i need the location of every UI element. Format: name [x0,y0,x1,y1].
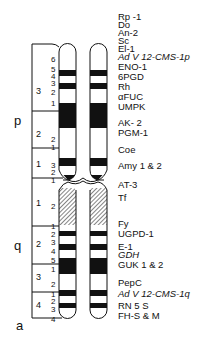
gene-label: PepC [118,278,142,288]
arm-label-q: q [14,238,21,253]
gene-label: Amy 1 & 2 [118,161,162,171]
gene-label: FH-S & M [118,311,160,321]
region-number: 3 [36,86,41,96]
region-number: 3 [36,272,41,282]
gene-label: PGM-1 [118,128,148,138]
region-number: 4 [36,300,41,310]
region-number: 2 [36,129,41,139]
arm-label-a: a [16,318,23,333]
gene-label: GUK 1 & 2 [118,260,163,270]
band-number: 5 [51,256,55,265]
region-number: 1 [36,198,41,208]
arm-label-p: p [14,113,21,128]
band-number: 1 [51,143,55,152]
band-number: 3 [51,79,55,88]
band-number: 4 [51,315,55,324]
gene-label: UGPD-1 [118,229,154,239]
gene-label: AT-3 [118,180,137,190]
region-number: 2 [36,239,41,249]
band-number: 3 [51,238,55,247]
gene-label: Tf [118,193,126,203]
gene-label: UMPK [118,102,145,112]
band-number: 1 [51,176,55,185]
gene-label: Coe [118,145,135,155]
band-number: 1 [51,99,55,108]
gene-label: Ad V 12-CMS-1q [118,289,190,299]
region-number: 1 [36,159,41,169]
band-number: 1 [51,265,55,274]
band-number: 2 [51,202,55,211]
band-number: 4 [51,247,55,256]
band-number: 2 [51,88,55,97]
band-number: 3 [51,305,55,314]
band-number: 2 [51,280,55,289]
band-number: 6 [51,55,55,64]
